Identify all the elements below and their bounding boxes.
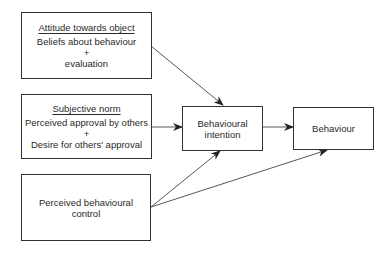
- node-perceived-control: Perceived behavioural control: [21, 174, 151, 241]
- node-attitude-line-2: evaluation: [65, 58, 108, 69]
- node-perceived-control-line-2: control: [72, 208, 101, 219]
- node-attitude-plus: +: [84, 47, 90, 58]
- edge-control-to-intention: [151, 151, 220, 207]
- node-attitude-heading: Attitude towards object: [38, 22, 134, 33]
- node-intention: Behavioural intention: [182, 106, 263, 151]
- node-subjective-norm-heading: Subjective norm: [52, 103, 120, 114]
- node-attitude: Attitude towards object Beliefs about be…: [21, 12, 152, 79]
- edge-control-to-behaviour: [151, 150, 327, 207]
- node-perceived-control-line-1: Perceived behavioural: [39, 197, 133, 208]
- node-subjective-norm-line-2: Desire for others' approval: [31, 139, 142, 150]
- node-intention-line-2: intention: [205, 129, 241, 140]
- node-intention-line-1: Behavioural: [197, 118, 247, 129]
- node-behaviour: Behaviour: [293, 107, 374, 150]
- edge-attitude-to-intention: [151, 46, 223, 105]
- node-subjective-norm-line-1: Perceived approval by others: [25, 117, 148, 128]
- node-subjective-norm: Subjective norm Perceived approval by ot…: [21, 94, 152, 159]
- node-attitude-line-1: Beliefs about behaviour: [37, 36, 136, 47]
- node-subjective-norm-plus: +: [84, 128, 90, 139]
- node-behaviour-label: Behaviour: [312, 123, 355, 134]
